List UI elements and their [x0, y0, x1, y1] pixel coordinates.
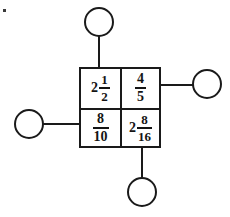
- connector-left: [43, 123, 80, 125]
- mixed-number-top-left: 2 1 2: [91, 73, 110, 103]
- answer-circle-left[interactable]: [14, 109, 44, 139]
- numerator-bottom-right: 8: [140, 113, 149, 127]
- numerator-bottom-left: 8: [96, 112, 105, 127]
- grid-cell-top-right[interactable]: 4 5: [120, 69, 159, 108]
- fraction-top-left: 1 2: [99, 73, 110, 103]
- answer-circle-top[interactable]: [84, 7, 114, 37]
- mixed-number-bottom-left: 8 10: [93, 112, 109, 144]
- denominator-top-left: 2: [100, 89, 109, 103]
- grid-cell-bottom-right[interactable]: 2 8 16: [120, 108, 159, 147]
- answer-circle-right[interactable]: [192, 69, 222, 99]
- denominator-top-right: 5: [136, 89, 145, 104]
- diagram-canvas: 2 1 2 4 5 8: [0, 0, 230, 217]
- scan-speck-artifact: [3, 9, 6, 12]
- fraction-bottom-left: 8 10: [93, 112, 109, 144]
- connector-top: [98, 36, 100, 68]
- fraction-grid: 2 1 2 4 5 8: [79, 67, 161, 148]
- connector-right: [160, 84, 193, 86]
- fraction-bottom-right: 8 16: [137, 113, 152, 143]
- answer-circle-bottom[interactable]: [127, 177, 157, 207]
- numerator-top-left: 1: [100, 73, 109, 87]
- mixed-number-top-right: 4 5: [135, 72, 146, 104]
- whole-part-top-left: 2: [91, 81, 98, 95]
- mixed-number-bottom-right: 2 8 16: [129, 113, 152, 143]
- grid-cell-bottom-left[interactable]: 8 10: [81, 108, 120, 147]
- whole-part-bottom-right: 2: [129, 121, 136, 135]
- numerator-top-right: 4: [136, 72, 145, 87]
- denominator-bottom-right: 16: [137, 129, 152, 143]
- denominator-bottom-left: 10: [93, 129, 109, 144]
- grid-cell-top-left[interactable]: 2 1 2: [81, 69, 120, 108]
- connector-bottom: [141, 147, 143, 178]
- fraction-top-right: 4 5: [135, 72, 146, 104]
